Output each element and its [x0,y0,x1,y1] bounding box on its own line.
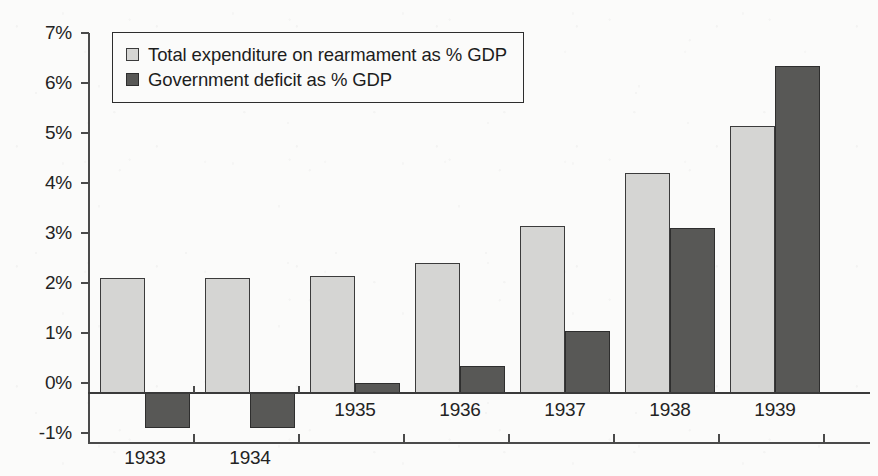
y-tick-6 [81,82,89,84]
legend-label-expenditure: Total expenditure on rearmament as % GDP [148,45,507,64]
y-tick-3 [81,232,89,234]
x-tick-boundary-4 [508,434,510,442]
x-axis-label-1934: 1934 [205,448,295,467]
bar-1934-expenditure [205,278,250,393]
bar-1936-deficit [460,366,505,394]
zero-baseline [88,392,870,394]
y-tick-label-7: 7% [6,23,72,42]
bar-1939-deficit [775,66,820,394]
y-tick-label-0: 0% [6,373,72,392]
x-axis-label-1939: 1939 [730,400,820,419]
y-tick-label-5: 5% [6,123,72,142]
bar-1935-expenditure [310,276,355,394]
legend-item-deficit: Government deficit as % GDP [126,67,507,92]
x-tick-boundary-6 [718,434,720,442]
zero-tick-boundary-2 [298,386,300,393]
y-tick-2 [81,282,89,284]
zero-tick-boundary-1 [193,386,195,393]
x-tick-boundary-1 [193,434,195,442]
bar-1934-deficit [250,393,295,428]
bar-1938-deficit [670,228,715,393]
y-tick-label-3: 3% [6,223,72,242]
y-tick-5 [81,132,89,134]
y-tick-label-2: 2% [6,273,72,292]
legend-swatch-dark-icon [126,73,139,86]
x-axis-label-1933: 1933 [100,448,190,467]
y-tick-7 [81,32,89,34]
x-tick-boundary-0 [88,434,90,442]
y-tick-label-1: 1% [6,323,72,342]
bar-1937-expenditure [520,226,565,394]
y-tick-label-4: 4% [6,173,72,192]
x-axis-label-1936: 1936 [415,400,505,419]
x-tick-boundary-5 [613,434,615,442]
legend-swatch-light-icon [126,48,139,61]
bar-1937-deficit [565,331,610,394]
bar-1933-expenditure [100,278,145,393]
bar-1938-expenditure [625,173,670,393]
x-axis-label-1938: 1938 [625,400,715,419]
legend-item-expenditure: Total expenditure on rearmament as % GDP [126,42,507,67]
chart-legend: Total expenditure on rearmament as % GDP… [112,32,524,103]
bar-1936-expenditure [415,263,460,393]
rearmament-deficit-bar-chart: 7% 6% 5% 4% 3% 2% 1% 0% -1% [0,0,878,476]
y-tick-label-minus-1: -1% [6,423,72,442]
y-tick-1 [81,332,89,334]
x-tick-boundary-7 [823,434,825,442]
y-tick-0 [81,382,89,384]
x-tick-boundary-2 [298,434,300,442]
legend-label-deficit: Government deficit as % GDP [148,70,392,89]
bar-1939-expenditure [730,126,775,394]
x-axis-line [88,442,870,444]
bar-1933-deficit [145,393,190,428]
y-tick-label-6: 6% [6,73,72,92]
x-tick-boundary-3 [403,434,405,442]
y-tick-4 [81,182,89,184]
x-axis-label-1937: 1937 [520,400,610,419]
x-axis-label-1935: 1935 [310,400,400,419]
